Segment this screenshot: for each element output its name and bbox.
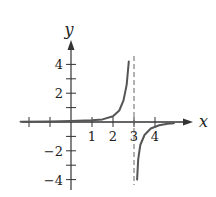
curve-left-branch — [21, 62, 129, 122]
y-tick-label: 4 — [55, 57, 63, 72]
y-tick-label: −2 — [44, 144, 63, 159]
y-axis-label: y — [63, 20, 74, 39]
y-axis-arrow-icon — [68, 40, 75, 50]
axes — [22, 40, 193, 190]
labels: 123442−2−4xy — [44, 20, 208, 188]
x-tick-label: 4 — [151, 129, 159, 144]
function-graph: 123442−2−4xy — [0, 0, 216, 197]
y-tick-label: 2 — [55, 86, 63, 101]
y-tick-label: −4 — [44, 173, 63, 188]
x-axis-arrow-icon — [183, 119, 193, 126]
x-tick-label: 1 — [88, 129, 96, 144]
x-tick-label: 2 — [109, 129, 117, 144]
x-tick-label: 3 — [130, 129, 138, 144]
curves — [21, 62, 174, 180]
x-axis-label: x — [199, 112, 208, 131]
